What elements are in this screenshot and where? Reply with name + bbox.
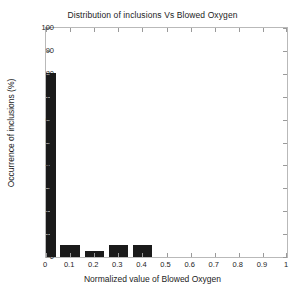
y-axis-label: Occurrence of inclusions (%) [6, 43, 16, 223]
x-tick-mark [191, 28, 192, 32]
x-tick-mark [167, 253, 168, 257]
x-tick-mark [215, 28, 216, 32]
y-tick-mark [283, 51, 287, 52]
y-tick-mark [283, 143, 287, 144]
x-tick-mark [94, 253, 95, 257]
y-tick-label: 10 [24, 229, 54, 238]
x-tick-mark [118, 28, 119, 32]
y-tick-label: 100 [24, 23, 54, 32]
y-tick-mark [283, 188, 287, 189]
x-tick-mark [286, 253, 287, 257]
y-tick-label: 60 [24, 114, 54, 123]
x-tick-label: 1 [271, 260, 301, 269]
y-tick-label: 50 [24, 137, 54, 146]
x-tick-mark [215, 253, 216, 257]
x-tick-mark [239, 253, 240, 257]
y-tick-label: 40 [24, 160, 54, 169]
y-tick-label: 90 [24, 45, 54, 54]
x-tick-mark [142, 253, 143, 257]
y-tick-mark [283, 211, 287, 212]
x-tick-mark [94, 28, 95, 32]
plot-area [45, 27, 288, 258]
y-tick-mark [283, 74, 287, 75]
y-tick-mark [283, 165, 287, 166]
x-tick-mark [263, 28, 264, 32]
x-axis-label: Normalized value of Blowed Oxygen [0, 274, 305, 284]
chart-title: Distribution of inclusions Vs Blowed Oxy… [0, 10, 305, 20]
x-tick-mark [263, 253, 264, 257]
y-tick-mark [283, 234, 287, 235]
y-tick-label: 80 [24, 68, 54, 77]
x-tick-mark [191, 253, 192, 257]
x-tick-mark [286, 28, 287, 32]
y-tick-label: 30 [24, 183, 54, 192]
x-tick-mark [70, 253, 71, 257]
y-tick-mark [283, 257, 287, 258]
chart-screenshot: Distribution of inclusions Vs Blowed Oxy… [0, 0, 305, 296]
y-tick-mark [283, 120, 287, 121]
bars-layer [46, 28, 287, 257]
y-tick-label: 20 [24, 206, 54, 215]
x-tick-mark [118, 253, 119, 257]
x-tick-mark [142, 28, 143, 32]
x-tick-mark [167, 28, 168, 32]
x-tick-mark [70, 28, 71, 32]
y-tick-label: 70 [24, 91, 54, 100]
y-tick-mark [283, 97, 287, 98]
x-tick-mark [239, 28, 240, 32]
